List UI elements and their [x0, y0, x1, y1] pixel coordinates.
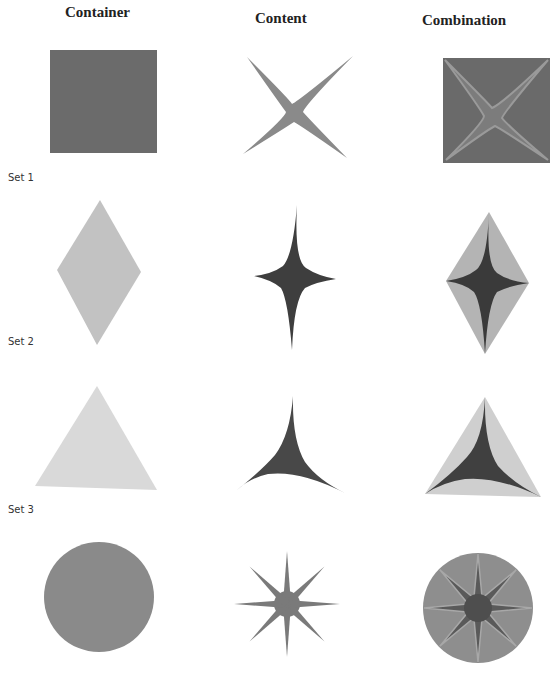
combination-triangle-with-star	[425, 397, 541, 497]
container-triangle	[35, 386, 157, 490]
container-square	[50, 50, 157, 153]
content-eight-point-star	[234, 551, 340, 657]
combination-circle-with-star	[423, 553, 533, 663]
content-x-star	[243, 56, 353, 158]
content-vertical-star	[254, 205, 336, 350]
container-diamond	[57, 200, 141, 345]
combination-diamond-with-star	[446, 212, 529, 354]
content-three-point-star	[237, 396, 345, 493]
container-circle	[44, 542, 154, 652]
combination-square-with-x-star	[443, 58, 550, 163]
shape-diagram	[0, 0, 552, 676]
